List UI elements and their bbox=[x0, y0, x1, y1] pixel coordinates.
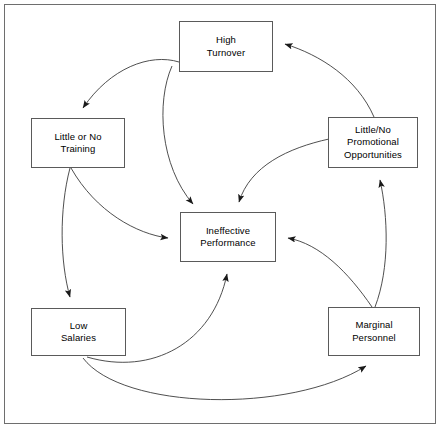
node-marginal-personnel-label: Marginal Personnel bbox=[352, 319, 396, 344]
node-low-salaries[interactable]: Low Salaries bbox=[31, 308, 126, 356]
node-little-no-promotional-opportunities[interactable]: Little/No Promotional Opportunities bbox=[328, 117, 418, 168]
node-low-salaries-label: Low Salaries bbox=[61, 320, 96, 345]
node-ineffective-performance[interactable]: Ineffective Performance bbox=[180, 212, 276, 262]
node-little-or-no-training[interactable]: Little or No Training bbox=[31, 118, 125, 168]
diagram-canvas: High Turnover Little or No Training Litt… bbox=[0, 0, 447, 439]
node-little-no-promotional-opportunities-label: Little/No Promotional Opportunities bbox=[344, 124, 402, 162]
node-ineffective-performance-label: Ineffective Performance bbox=[200, 225, 255, 250]
node-high-turnover-label: High Turnover bbox=[207, 34, 245, 59]
node-little-or-no-training-label: Little or No Training bbox=[54, 131, 101, 156]
node-high-turnover[interactable]: High Turnover bbox=[179, 21, 273, 72]
node-marginal-personnel[interactable]: Marginal Personnel bbox=[328, 307, 420, 356]
